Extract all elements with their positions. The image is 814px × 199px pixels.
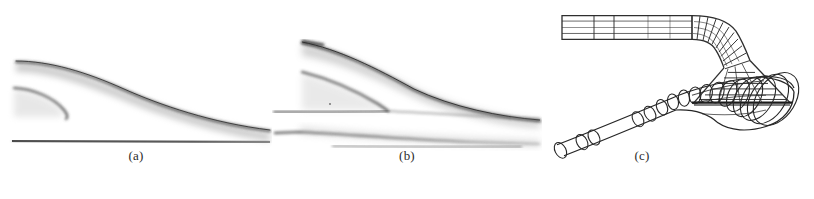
panel-b-label: (b): [272, 148, 542, 164]
wedge-lower-edge: [274, 111, 388, 112]
noise-speck: [329, 103, 331, 105]
flow-visualization-fine-graphic: [272, 0, 542, 165]
panel-b: (b): [272, 0, 542, 199]
panel-a: (a): [0, 0, 272, 199]
panel-c-background: [542, 0, 814, 165]
panel-a-label: (a): [0, 148, 272, 164]
lower-wall-glow: [12, 141, 270, 142]
flow-visualization-coarse-graphic: [0, 0, 272, 165]
computational-mesh-geometry-graphic: [542, 0, 814, 165]
figure-container: (a): [0, 0, 814, 199]
panel-c-label: (c): [582, 148, 702, 164]
panel-c: (c): [542, 0, 814, 199]
